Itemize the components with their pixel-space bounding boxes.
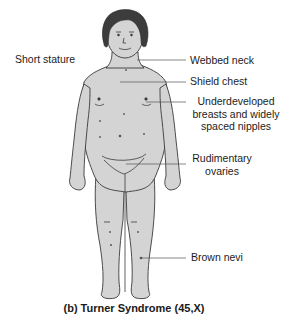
figure-caption: (b) Turner Syndrome (45,X) — [0, 302, 268, 314]
label-brown-nevi: Brown nevi — [191, 251, 243, 264]
label-breasts-line-1: Underdeveloped — [186, 95, 286, 108]
label-webbed-neck: Webbed neck — [190, 54, 254, 67]
label-short-stature: Short stature — [15, 53, 75, 66]
label-breasts-line-2: breasts and widely — [186, 108, 286, 121]
label-ovaries-line-2: ovaries — [186, 165, 258, 178]
label-rudimentary-ovaries: Rudimentary ovaries — [186, 152, 258, 177]
label-underdeveloped-breasts: Underdeveloped breasts and widely spaced… — [186, 95, 286, 133]
left-leg — [95, 175, 124, 299]
torso — [82, 58, 168, 192]
right-nipple — [145, 98, 147, 100]
right-leg — [126, 175, 155, 299]
label-shield-chest: Shield chest — [190, 75, 247, 88]
label-breasts-line-3: spaced nipples — [186, 120, 286, 133]
label-ovaries-line-1: Rudimentary — [186, 152, 258, 165]
left-nipple — [98, 98, 100, 100]
